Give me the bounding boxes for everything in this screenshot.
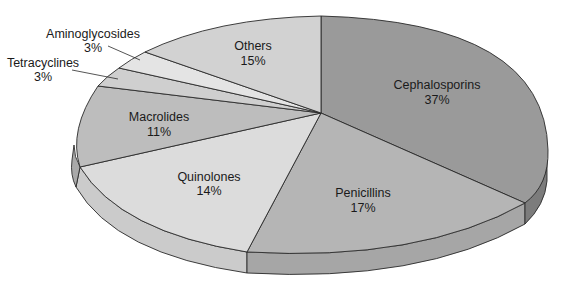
label-penicillins-pct: 17% [350, 201, 375, 215]
label-others-pct: 15% [240, 54, 265, 68]
label-aminoglycosides-pct: 3% [84, 41, 102, 55]
label-macrolides-pct: 11% [147, 125, 171, 139]
label-others: Others [234, 39, 272, 53]
label-aminoglycosides: Aminoglycosides [46, 27, 140, 41]
label-quinolones-pct: 14% [196, 184, 221, 198]
label-cephalosporins-pct: 37% [424, 93, 449, 107]
pie-chart: Cephalosporins 37% Penicillins 17% Quino… [0, 0, 576, 281]
label-cephalosporins: Cephalosporins [394, 78, 481, 92]
label-quinolones: Quinolones [177, 170, 240, 184]
label-tetracyclines: Tetracyclines [7, 56, 79, 70]
label-macrolides: Macrolides [129, 110, 189, 124]
label-penicillins: Penicillins [335, 186, 391, 200]
leader-line-aminoglycosides [108, 46, 140, 60]
label-tetracyclines-pct: 3% [34, 70, 52, 84]
